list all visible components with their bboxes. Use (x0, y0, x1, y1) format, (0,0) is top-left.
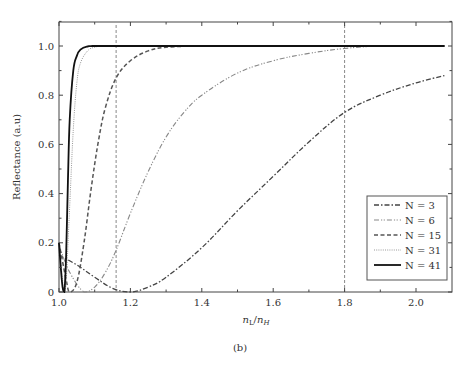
legend: N = 3N = 6N = 15N = 31N = 41 (367, 196, 447, 280)
legend-label: N = 15 (405, 230, 441, 241)
reference-lines (116, 25, 344, 292)
y-tick-label: 0.4 (38, 188, 54, 199)
x-axis-label: nL/nH (b) (233, 314, 271, 353)
x-tick-label: 1.4 (194, 297, 210, 308)
legend-label: N = 31 (405, 245, 441, 256)
legend-label: N = 41 (405, 260, 441, 271)
reflectance-chart: 1.01.21.41.61.82.000.20.40.60.81.0 Refle… (0, 0, 470, 374)
x-tick-label: 1.8 (337, 297, 353, 308)
y-axis-title: Reflectance (a.u) (11, 114, 22, 200)
y-tick-label: 1.0 (38, 41, 54, 52)
legend-label: N = 3 (405, 200, 435, 211)
y-tick-label: 0.8 (38, 90, 54, 101)
x-tick-label: 1.6 (265, 297, 281, 308)
x-tick-label: 1.0 (51, 297, 67, 308)
x-tick-label: 2.0 (408, 297, 424, 308)
panel-label: (b) (233, 342, 247, 353)
y-tick-label: 0 (48, 287, 54, 298)
legend-label: N = 6 (405, 215, 435, 226)
x-axis-title: nL/nH (242, 314, 270, 327)
x-tick-label: 1.2 (122, 297, 138, 308)
y-tick-label: 0.6 (38, 139, 54, 150)
y-axis-label: Reflectance (a.u) (11, 114, 22, 200)
y-tick-label: 0.2 (38, 237, 54, 248)
